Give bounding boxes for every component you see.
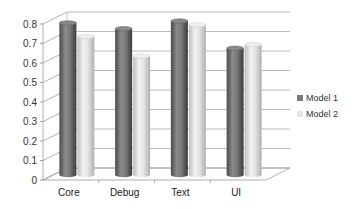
legend-swatch-model-2 bbox=[297, 111, 303, 117]
legend-label-model-1: Model 1 bbox=[306, 93, 338, 103]
bar-debug-model-2 bbox=[133, 54, 150, 177]
legend-item-model-1: Model 1 bbox=[297, 93, 338, 103]
x-category-label: Debug bbox=[110, 187, 139, 198]
bar-debug-model-1 bbox=[115, 27, 132, 178]
x-category-label: UI bbox=[231, 187, 241, 198]
y-tick-label: 0.7 bbox=[23, 38, 37, 49]
bar-text-model-1 bbox=[171, 19, 188, 177]
x-category-label: Text bbox=[171, 187, 190, 198]
y-tick-label: 0.4 bbox=[23, 97, 37, 108]
bar-ui-model-2 bbox=[245, 42, 262, 177]
y-tick-label: 0.6 bbox=[23, 58, 37, 69]
bar-chart: 00.10.20.30.40.50.60.70.8CoreDebugTextUI bbox=[0, 0, 355, 209]
y-tick-label: 0.3 bbox=[23, 116, 37, 127]
x-category-label: Core bbox=[58, 187, 80, 198]
y-tick-label: 0 bbox=[31, 175, 37, 186]
legend-label-model-2: Model 2 bbox=[306, 109, 338, 119]
bar-ui-model-1 bbox=[227, 46, 244, 177]
bar-text-model-2 bbox=[189, 23, 206, 178]
legend-item-model-2: Model 2 bbox=[297, 109, 338, 119]
bar-core-model-2 bbox=[77, 34, 94, 177]
bar-core-model-1 bbox=[59, 21, 76, 178]
gridline bbox=[40, 12, 290, 24]
y-tick-label: 0.5 bbox=[23, 77, 37, 88]
y-tick-label: 0.2 bbox=[23, 136, 37, 147]
y-tick-label: 0.1 bbox=[23, 155, 37, 166]
legend-swatch-model-1 bbox=[297, 95, 303, 101]
y-tick-label: 0.8 bbox=[23, 19, 37, 30]
